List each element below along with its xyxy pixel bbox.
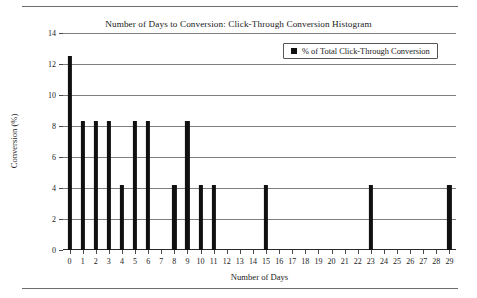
x-tick-label: 10 bbox=[197, 257, 205, 266]
x-tick-label: 3 bbox=[107, 257, 111, 266]
x-tick-mark bbox=[305, 250, 306, 254]
bottom-divider-rule bbox=[22, 288, 458, 289]
x-tick-mark bbox=[358, 250, 359, 254]
x-tick-mark bbox=[122, 250, 123, 254]
x-tick-mark bbox=[318, 250, 319, 254]
y-tick-mark bbox=[59, 219, 63, 220]
x-tick-label: 18 bbox=[301, 257, 309, 266]
y-tick-mark bbox=[59, 250, 63, 251]
y-tick-mark bbox=[59, 33, 63, 34]
y-gridline bbox=[63, 126, 456, 127]
y-tick-label: 14 bbox=[48, 29, 56, 38]
x-tick-label: 19 bbox=[314, 257, 322, 266]
x-tick-mark bbox=[174, 250, 175, 254]
bar bbox=[67, 56, 71, 250]
bar bbox=[185, 121, 189, 250]
x-tick-mark bbox=[397, 250, 398, 254]
x-tick-mark bbox=[279, 250, 280, 254]
x-tick-mark bbox=[96, 250, 97, 254]
x-tick-label: 29 bbox=[445, 257, 453, 266]
bar bbox=[107, 121, 111, 250]
x-tick-label: 0 bbox=[68, 257, 72, 266]
x-tick-label: 1 bbox=[81, 257, 85, 266]
y-tick-mark bbox=[59, 126, 63, 127]
y-tick-mark bbox=[59, 157, 63, 158]
x-tick-label: 13 bbox=[236, 257, 244, 266]
x-tick-mark bbox=[266, 250, 267, 254]
x-tick-label: 27 bbox=[419, 257, 427, 266]
plot-area: 0246810121401234567891011121314151617181… bbox=[63, 33, 456, 250]
x-tick-mark bbox=[436, 250, 437, 254]
x-axis-title: Number of Days bbox=[63, 272, 456, 282]
y-axis-title: Conversion (%) bbox=[9, 114, 19, 169]
bar bbox=[172, 185, 176, 250]
x-tick-label: 26 bbox=[406, 257, 414, 266]
x-tick-label: 5 bbox=[133, 257, 137, 266]
x-tick-mark bbox=[201, 250, 202, 254]
x-tick-mark bbox=[292, 250, 293, 254]
x-tick-mark bbox=[332, 250, 333, 254]
x-tick-label: 23 bbox=[367, 257, 375, 266]
x-tick-mark bbox=[70, 250, 71, 254]
x-tick-mark bbox=[410, 250, 411, 254]
bar bbox=[120, 185, 124, 250]
bar bbox=[264, 185, 268, 250]
bar bbox=[447, 185, 451, 250]
y-gridline bbox=[63, 157, 456, 158]
x-tick-mark bbox=[214, 250, 215, 254]
y-tick-label: 10 bbox=[48, 91, 56, 100]
y-tick-mark bbox=[59, 64, 63, 65]
bar bbox=[94, 121, 98, 250]
y-tick-label: 12 bbox=[48, 60, 56, 69]
x-tick-mark bbox=[449, 250, 450, 254]
legend-square-icon bbox=[291, 48, 297, 54]
x-tick-label: 7 bbox=[159, 257, 163, 266]
top-divider-rule bbox=[22, 6, 458, 7]
x-tick-label: 28 bbox=[432, 257, 440, 266]
y-tick-label: 6 bbox=[52, 153, 56, 162]
x-tick-mark bbox=[240, 250, 241, 254]
x-tick-label: 11 bbox=[210, 257, 218, 266]
x-tick-mark bbox=[423, 250, 424, 254]
y-gridline bbox=[63, 95, 456, 96]
x-tick-mark bbox=[161, 250, 162, 254]
chart-page: Number of Days to Conversion: Click-Thro… bbox=[0, 0, 477, 298]
legend-item-label: % of Total Click-Through Conversion bbox=[302, 47, 430, 56]
bar bbox=[146, 121, 150, 250]
x-tick-mark bbox=[227, 250, 228, 254]
x-tick-label: 16 bbox=[275, 257, 283, 266]
y-tick-mark bbox=[59, 188, 63, 189]
x-tick-label: 14 bbox=[249, 257, 257, 266]
y-gridline bbox=[63, 33, 456, 34]
x-tick-mark bbox=[384, 250, 385, 254]
x-tick-label: 25 bbox=[393, 257, 401, 266]
x-tick-mark bbox=[371, 250, 372, 254]
x-tick-mark bbox=[148, 250, 149, 254]
x-tick-label: 22 bbox=[354, 257, 362, 266]
x-tick-label: 24 bbox=[380, 257, 388, 266]
bar bbox=[133, 121, 137, 250]
x-tick-mark bbox=[187, 250, 188, 254]
bar bbox=[212, 185, 216, 250]
x-tick-label: 12 bbox=[223, 257, 231, 266]
x-tick-mark bbox=[253, 250, 254, 254]
y-gridline bbox=[63, 64, 456, 65]
y-tick-label: 2 bbox=[52, 215, 56, 224]
x-tick-mark bbox=[109, 250, 110, 254]
x-tick-label: 15 bbox=[262, 257, 270, 266]
x-tick-mark bbox=[83, 250, 84, 254]
bar bbox=[81, 121, 85, 250]
y-tick-label: 8 bbox=[52, 122, 56, 131]
chart-legend: % of Total Click-Through Conversion bbox=[283, 43, 438, 59]
x-tick-label: 8 bbox=[172, 257, 176, 266]
y-tick-mark bbox=[59, 95, 63, 96]
bar bbox=[198, 185, 202, 250]
x-tick-label: 20 bbox=[328, 257, 336, 266]
x-tick-mark bbox=[135, 250, 136, 254]
x-tick-label: 21 bbox=[341, 257, 349, 266]
x-tick-label: 6 bbox=[146, 257, 150, 266]
y-tick-label: 0 bbox=[52, 246, 56, 255]
bar bbox=[369, 185, 373, 250]
chart-title: Number of Days to Conversion: Click-Thro… bbox=[0, 19, 477, 29]
x-tick-mark bbox=[345, 250, 346, 254]
